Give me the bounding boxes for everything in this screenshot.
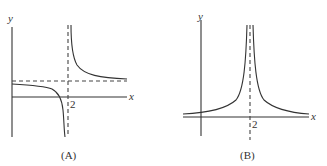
figure: y x 2 (A) y x 2 (B) (0, 0, 327, 166)
y-axis-label-a: y (7, 12, 13, 24)
right-branch-b (253, 25, 309, 114)
graph-a: y x 2 (A) (7, 12, 134, 162)
tick-label-b: 2 (252, 118, 258, 130)
left-branch-a (12, 84, 65, 137)
x-axis-label-a: x (128, 90, 134, 102)
left-branch-b (183, 25, 247, 114)
right-branch-a (71, 25, 127, 79)
caption-a: (A) (61, 149, 77, 162)
y-axis-label-b: y (197, 10, 203, 22)
x-axis-label-b: x (310, 110, 316, 122)
graph-b: y x 2 (B) (183, 10, 316, 162)
caption-b: (B) (240, 149, 255, 162)
tick-label-a: 2 (70, 98, 76, 110)
